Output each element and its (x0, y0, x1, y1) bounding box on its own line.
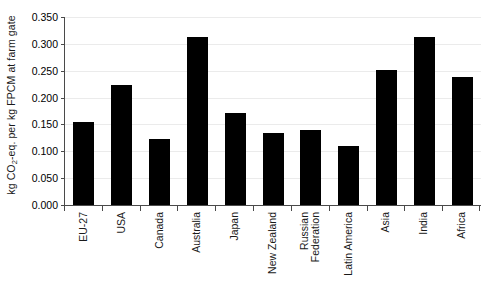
x-axis-tick-label-line: USA (115, 212, 127, 234)
x-axis-tick-label-line: EU-27 (77, 212, 89, 242)
y-axis-tick-label: 0.050 (32, 172, 58, 184)
x-axis-tickmark (177, 206, 178, 211)
x-axis-tick-label-line: Asia (379, 212, 391, 232)
bar (187, 37, 208, 205)
x-axis-tickmark (404, 206, 405, 211)
bar-chart-figure: kg CO2-eq. per kg FPCM at farm gate 0.00… (0, 0, 494, 283)
bar (149, 139, 170, 205)
y-axis-tick-label: 0.250 (32, 65, 58, 77)
x-axis-tick-label-line: Federation (310, 212, 321, 262)
y-axis-title: kg CO2-eq. per kg FPCM at farm gate (0, 0, 22, 210)
bar (73, 122, 94, 205)
x-axis-tick-label: USA (116, 212, 138, 283)
x-axis-tick-labels: EU-27USACanadaAustraliaJapanNew ZealandR… (64, 212, 480, 283)
x-axis-tickmark (253, 206, 254, 211)
x-axis-tick-label-line: New Zealand (266, 212, 278, 274)
y-axis-tick-label: 0.000 (32, 199, 58, 211)
y-axis-tick-labels: 0.0000.0500.1000.1500.2000.2500.3000.350 (22, 0, 62, 210)
x-axis-tickmarks (64, 206, 480, 211)
y-axis-tick-label: 0.350 (32, 11, 58, 23)
y-axis-title-post: -eq. per kg FPCM at farm gate (5, 15, 17, 160)
x-axis-tickmark (291, 206, 292, 211)
x-axis-tickmark (64, 206, 65, 211)
x-axis-tickmark (215, 206, 216, 211)
x-axis-tick-label-line: Russian (298, 212, 310, 250)
bar (376, 70, 397, 205)
x-axis-tick-label: India (418, 212, 441, 283)
y-axis-tick-label: 0.100 (32, 145, 58, 157)
bar (111, 85, 132, 205)
x-axis-tick-label: Asia (380, 212, 400, 283)
bar (452, 77, 473, 205)
x-axis-tick-label: Australia (191, 212, 232, 283)
x-axis-tick-label: EU-27 (78, 212, 108, 283)
bars-container (65, 17, 481, 205)
x-axis-tickmark (140, 206, 141, 211)
x-axis-tickmark (329, 206, 330, 211)
y-axis-tick-label: 0.150 (32, 118, 58, 130)
x-axis-tickmark (479, 206, 480, 211)
x-axis-tick-label: Africa (456, 212, 483, 283)
x-axis-tickmark (367, 206, 368, 211)
x-axis-tick-label: Japan (229, 212, 258, 283)
x-axis-tickmark (442, 206, 443, 211)
y-axis-title-pre: kg CO (5, 164, 17, 194)
y-axis-tick-label: 0.300 (32, 38, 58, 50)
y-axis-title-subscript: 2 (10, 160, 19, 164)
bar (414, 37, 435, 205)
x-axis-tickmark (102, 206, 103, 211)
bar (300, 130, 321, 205)
bar (338, 146, 359, 205)
x-axis-tick-label: Canada (154, 212, 191, 283)
x-axis-tick-label-line: India (417, 212, 429, 235)
bar (263, 133, 284, 205)
x-axis-tick-label-line: Japan (228, 212, 240, 241)
x-axis-tick-label-line: Africa (455, 212, 467, 239)
x-axis-tick-label-line: Latin America (342, 212, 354, 276)
x-axis-tick-label-line: Australia (190, 212, 202, 253)
x-axis-tick-label-line: Canada (153, 212, 165, 249)
y-axis-tick-label: 0.200 (32, 92, 58, 104)
plot-area (64, 17, 481, 206)
bar (225, 113, 246, 205)
